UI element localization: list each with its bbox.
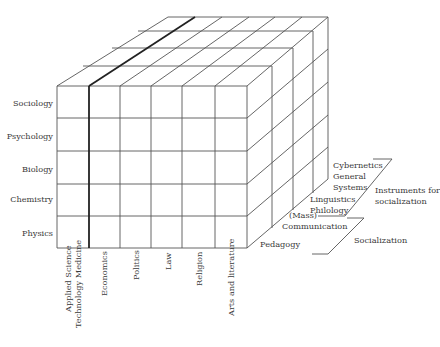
row-label-chemistry: Chemistry [10, 195, 53, 203]
column-label-arts-and-literature: Arts and literature [227, 239, 235, 316]
column-label-law: Law [164, 253, 172, 270]
depth-label-communication: Communication [282, 222, 347, 230]
row-label-biology: Biology [22, 165, 53, 173]
row-label-physics: Physics [22, 229, 53, 237]
depth-label-linguistics: Linguistics [310, 195, 355, 203]
column-label-technology-medicine: Technology Medicine [74, 240, 82, 328]
group-label-socialization: Socialization [354, 236, 407, 244]
column-label-religion: Religion [195, 252, 203, 286]
column-label-politics: Politics [132, 250, 140, 280]
group-label-socialization-sub: socialization [375, 197, 427, 205]
depth-label-philology: Philology [310, 206, 348, 214]
group-label-instruments: Instruments for [375, 186, 440, 194]
depth-label-systems: Systems [333, 183, 368, 191]
depth-label-general: General [333, 172, 366, 180]
row-label-sociology: Sociology [13, 99, 53, 107]
row-label-psychology: Psychology [7, 132, 53, 140]
column-label-economics: Economics [100, 251, 108, 296]
column-label-applied-science: Applied Science [64, 245, 72, 312]
depth-label-cybernetics: Cybernetics [333, 161, 383, 169]
depth-label-pedagogy: Pedagogy [260, 240, 300, 248]
